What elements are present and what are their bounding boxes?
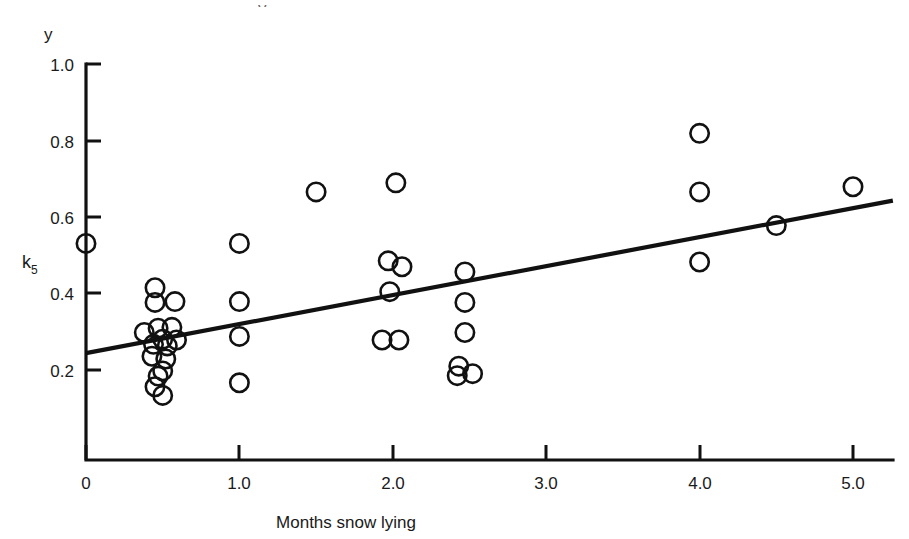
data-point [456, 323, 474, 341]
data-point [381, 283, 399, 301]
y-tick-label-0-6: 0.6 [50, 209, 74, 228]
y-tick-label-0-4: 0.4 [50, 285, 74, 304]
data-point [157, 350, 175, 368]
axis-lines [86, 64, 893, 460]
k5-subscript: 5 [31, 263, 38, 277]
data-point [230, 292, 248, 310]
x-tick-label-5-0: 5.0 [841, 474, 865, 493]
data-point [690, 253, 708, 271]
data-point [387, 174, 405, 192]
scatter-markers-group [77, 124, 862, 405]
data-point [690, 124, 708, 142]
data-point [230, 234, 248, 252]
data-point [230, 327, 248, 345]
x-axis-title: Months snow lying [276, 513, 416, 532]
data-point [690, 183, 708, 201]
scatter-plot-figure: y y k5 1.0 0.8 0.6 0.4 0.2 [0, 0, 909, 539]
x-tick-label-3-0: 3.0 [534, 474, 558, 493]
data-point [230, 374, 248, 392]
x-tick-label-0: 0 [81, 474, 90, 493]
x-tick-label-2-0: 2.0 [381, 474, 405, 493]
x-tick-label-4-0: 4.0 [688, 474, 712, 493]
x-axis-tick-labels: 0 1.0 2.0 3.0 4.0 5.0 [81, 474, 865, 493]
regression-fit-line [86, 201, 893, 353]
data-point [456, 263, 474, 281]
y-axis-ticks [86, 64, 101, 370]
x-axis-ticks [86, 445, 853, 460]
y-axis-label: y [44, 25, 53, 44]
x-tick-label-1-0: 1.0 [227, 474, 251, 493]
y-tick-label-0-8: 0.8 [50, 133, 74, 152]
data-point [456, 293, 474, 311]
data-point [307, 183, 325, 201]
data-point [163, 318, 181, 336]
data-point [166, 292, 184, 310]
k5-axis-annotation: k5 [22, 252, 38, 277]
plot-canvas: y k5 1.0 0.8 0.6 0.4 0.2 [0, 0, 909, 539]
y-tick-label-0-2: 0.2 [50, 362, 74, 381]
data-point [844, 178, 862, 196]
y-tick-label-1-0: 1.0 [50, 56, 74, 75]
y-axis-tick-labels: 1.0 0.8 0.6 0.4 0.2 [50, 56, 74, 381]
